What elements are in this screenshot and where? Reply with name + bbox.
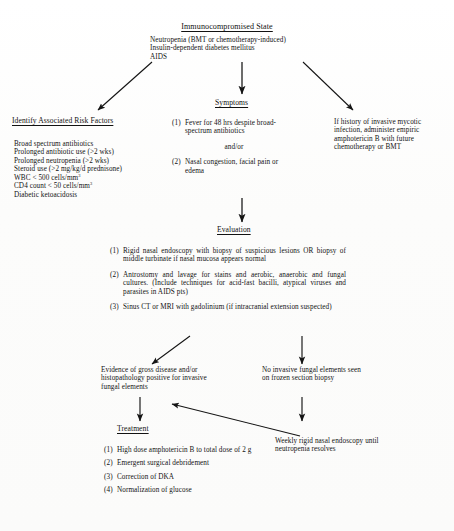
symptom-item-2: (2) Nasal congestion, facial pain or ede… xyxy=(172,158,296,175)
symptoms-connector: and/or xyxy=(172,143,296,151)
wbc-threshold-label: WBC < 500 cells/mm xyxy=(14,174,78,182)
symptom-item-1-number: (1) xyxy=(172,119,185,127)
cd4-unit-exponent: 3 xyxy=(90,181,92,186)
treatment-item-number: (4) xyxy=(104,486,117,494)
symptoms-heading: Symptoms xyxy=(215,99,248,108)
treatment-item: (1) High dose amphotericin B to total do… xyxy=(104,446,256,454)
outcome-positive-box: Evidence of gross disease and/or histopa… xyxy=(101,366,217,391)
treatment-item-text: High dose amphotericin B to total dose o… xyxy=(117,446,256,454)
treatment-item-number: (1) xyxy=(104,446,117,454)
treatment-item-text: Emergent surgical debridement xyxy=(117,459,256,467)
risk-factor-item-cd4: CD4 count < 50 cells/mm3 xyxy=(14,182,164,190)
risk-factor-item: Prolonged neutropenia (>2 wks) xyxy=(14,157,164,165)
outcome-negative-box: No invasive fungal elements seen on froz… xyxy=(262,366,366,383)
evaluation-item: (2) Antrostomy and lavage for stains and… xyxy=(110,271,346,296)
mycotic-history-note: If history of invasive mycotic infection… xyxy=(334,118,446,152)
treatment-heading: Treatment xyxy=(117,425,149,434)
condition-item: Neutropenia (BMT or chemotherapy-induced… xyxy=(150,36,380,44)
arrow-top-to-mycotic-history xyxy=(303,62,353,110)
evaluation-item: (1) Rigid nasal endoscopy with biopsy of… xyxy=(110,247,346,264)
flowchart-page: Immunocompromised State Neutropenia (BMT… xyxy=(0,0,454,531)
evaluation-item-text: Rigid nasal endoscopy with biopsy of sus… xyxy=(123,247,346,264)
surveillance-note: Weekly rigid nasal endoscopy until neutr… xyxy=(275,437,379,454)
evaluation-item-text: Antrostomy and lavage for stains and aer… xyxy=(123,271,346,296)
evaluation-list: (1) Rigid nasal endoscopy with biopsy of… xyxy=(110,247,346,312)
symptom-item-2-text: Nasal congestion, facial pain or edema xyxy=(185,158,296,175)
symptom-item-2-number: (2) xyxy=(172,158,185,166)
immunocompromised-conditions-list: Neutropenia (BMT or chemotherapy-induced… xyxy=(150,36,380,61)
treatment-item: (4) Normalization of glucose xyxy=(104,486,256,494)
risk-factors-list: Broad spectrum antibiotics Prolonged ant… xyxy=(14,140,164,199)
arrow-evaluation-to-positive xyxy=(152,336,190,364)
arrow-surveillance-to-treatment xyxy=(172,404,300,436)
risk-factor-item: Steroid use (>2 mg/kg/d prednisone) xyxy=(14,165,164,173)
arrow-top-to-risk-factors xyxy=(98,62,152,110)
risk-factor-item: Diabetic ketoacidosis xyxy=(14,191,164,199)
evaluation-item: (3) Sinus CT or MRI with gadolinium (if … xyxy=(110,303,346,311)
risk-factors-heading: Identify Associated Risk Factors xyxy=(12,117,113,126)
page-title: Immunocompromised State xyxy=(0,22,454,32)
treatment-item: (3) Correction of DKA xyxy=(104,473,256,481)
treatment-item-text: Normalization of glucose xyxy=(117,486,256,494)
treatment-item-number: (2) xyxy=(104,459,117,467)
treatment-list: (1) High dose amphotericin B to total do… xyxy=(104,446,256,495)
risk-factor-item: Prolonged antibiotic use (>2 wks) xyxy=(14,148,164,156)
symptoms-list: (1) Fever for 48 hrs despite broad-spect… xyxy=(172,119,296,175)
condition-item: Insulin-dependent diabetes mellitus xyxy=(150,44,380,52)
evaluation-heading: Evaluation xyxy=(217,226,251,235)
treatment-item-number: (3) xyxy=(104,473,117,481)
symptom-item-1: (1) Fever for 48 hrs despite broad-spect… xyxy=(172,119,296,136)
wbc-unit-exponent: 3 xyxy=(78,173,80,178)
risk-factor-item: Broad spectrum antibiotics xyxy=(14,140,164,148)
evaluation-item-number: (3) xyxy=(110,303,123,311)
evaluation-item-text: Sinus CT or MRI with gadolinium (if intr… xyxy=(123,303,346,311)
evaluation-item-number: (2) xyxy=(110,271,123,279)
evaluation-item-number: (1) xyxy=(110,247,123,255)
treatment-item-text: Correction of DKA xyxy=(117,473,256,481)
condition-item: AIDS xyxy=(150,53,380,61)
treatment-item: (2) Emergent surgical debridement xyxy=(104,459,256,467)
symptom-item-1-text: Fever for 48 hrs despite broad-spectrum … xyxy=(185,119,296,136)
cd4-threshold-label: CD4 count < 50 cells/mm xyxy=(14,182,90,190)
